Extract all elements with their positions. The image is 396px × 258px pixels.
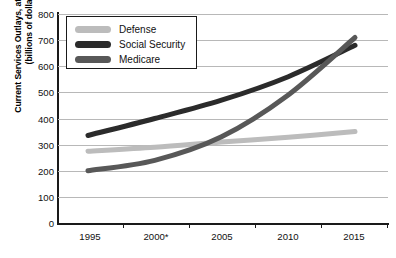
x-tick-label-2005: 2005 — [211, 231, 232, 242]
x-tick-2005 — [189, 223, 190, 228]
line-chart: Current Services Outlays, at Current Rat… — [0, 0, 396, 258]
y-tick-label-500: 500 — [38, 87, 54, 98]
y-tick-label-600: 600 — [38, 61, 54, 72]
x-tick-2015 — [321, 223, 322, 228]
y-tick-label-300: 300 — [38, 139, 54, 150]
legend-item-social-security: Social Security — [67, 37, 196, 52]
x-tick-label-2015: 2015 — [343, 231, 364, 242]
y-axis-title-line2: (billions of dollars) — [23, 0, 34, 142]
x-tick-2010 — [255, 223, 256, 228]
legend-item-defense: Defense — [67, 22, 196, 37]
y-tick-label-100: 100 — [38, 191, 54, 202]
y-tick-label-700: 700 — [38, 35, 54, 46]
x-tick-label-2010: 2010 — [277, 231, 298, 242]
legend-swatch-medicare — [75, 56, 111, 63]
legend-item-medicare: Medicare — [67, 52, 196, 67]
x-tick-label-2000: 2000* — [143, 231, 168, 242]
y-axis-title: Current Services Outlays, at Current Rat… — [13, 0, 34, 142]
legend-label-social-security: Social Security — [119, 39, 185, 50]
legend-swatch-social-security — [75, 41, 111, 48]
y-tick-label-800: 800 — [38, 9, 54, 20]
y-tick-label-0: 0 — [49, 218, 54, 229]
legend-label-defense: Defense — [119, 24, 156, 35]
y-tick-label-200: 200 — [38, 165, 54, 176]
x-tick-end — [387, 223, 388, 228]
y-tick-label-400: 400 — [38, 113, 54, 124]
x-axis-line — [57, 223, 389, 225]
legend-label-medicare: Medicare — [119, 54, 160, 65]
x-tick-2000 — [123, 223, 124, 228]
y-axis-title-line1: Current Services Outlays, at Current Rat… — [13, 0, 23, 113]
x-tick-label-1995: 1995 — [79, 231, 100, 242]
legend-swatch-defense — [75, 26, 111, 33]
chart-legend: Defense Social Security Medicare — [66, 16, 197, 69]
